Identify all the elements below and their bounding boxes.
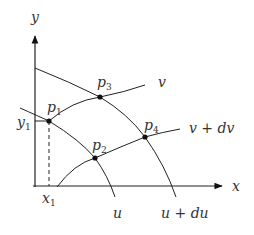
curve-v [49,85,145,121]
label-u-du: u + du [161,205,209,221]
label-v-dv: v + dv [189,120,235,136]
label-p4: p4 [144,117,159,135]
coordinate-diagram: y x p1 p2 p3 p4 y1 x1 v v + dv u u + du [0,0,254,235]
point-p3 [97,94,102,99]
label-x1: x1 [42,190,56,208]
point-p2 [92,155,97,160]
label-p2: p2 [92,137,107,155]
label-p3: p3 [97,74,112,92]
point-p4 [142,134,147,139]
label-y1: y1 [16,114,31,132]
point-p1 [46,118,51,123]
x-axis-label: x [232,178,240,194]
label-v: v [158,74,166,90]
curve-v-dv [57,129,180,187]
label-p1: p1 [47,99,62,117]
y-axis-label: y [30,9,40,25]
label-u: u [113,205,122,221]
